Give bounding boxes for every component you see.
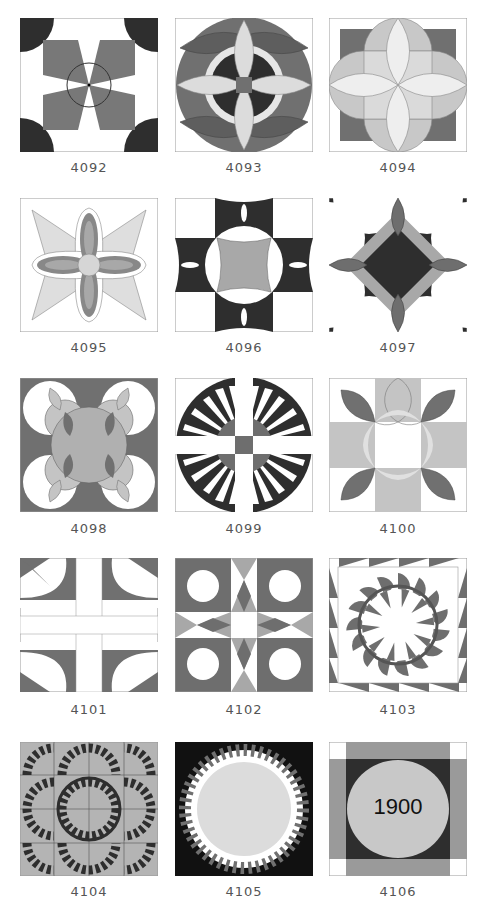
block-4100-pattern [329,378,467,512]
quilt-block-4097[interactable] [329,198,467,332]
block-4102-pattern [175,558,313,692]
quilt-block-4099[interactable] [175,378,313,512]
block-4096-pattern [175,198,313,332]
quilt-block-4096[interactable] [175,198,313,332]
quilt-block-4095[interactable] [20,198,158,332]
block-4097-pattern [329,198,467,332]
quilt-block-4092[interactable] [20,18,158,152]
block-4099-pattern [175,378,313,512]
quilt-block-4098[interactable] [20,378,158,512]
quilt-block-4102[interactable] [175,558,313,692]
block-4094-pattern [329,18,467,152]
block-label: 4094 [329,160,467,175]
quilt-block-4100[interactable] [329,378,467,512]
block-4093-pattern [175,18,313,152]
block-4105-pattern [175,742,313,876]
quilt-block-4093[interactable] [175,18,313,152]
block-label: 4103 [329,702,467,717]
block-4098-pattern [20,378,158,512]
quilt-block-4106[interactable]: 1900 [329,742,467,876]
block-label: 4106 [329,884,467,899]
block-4106-center-text: 1900 [329,794,467,820]
block-label: 4104 [20,884,158,899]
block-label: 4092 [20,160,158,175]
quilt-block-4103[interactable] [329,558,467,692]
quilt-block-4101[interactable] [20,558,158,692]
quilt-block-4105[interactable] [175,742,313,876]
quilt-block-4104[interactable] [20,742,158,876]
block-label: 4095 [20,340,158,355]
block-label: 4102 [175,702,313,717]
block-label: 4101 [20,702,158,717]
block-label: 4097 [329,340,467,355]
block-4101-pattern [20,558,158,692]
block-4103-pattern [329,558,467,692]
block-4095-pattern [20,198,158,332]
block-label: 4098 [20,521,158,536]
block-label: 4100 [329,521,467,536]
block-label: 4096 [175,340,313,355]
block-label: 4099 [175,521,313,536]
block-label: 4105 [175,884,313,899]
block-4092-pattern [20,18,158,152]
block-label: 4093 [175,160,313,175]
block-4104-pattern [20,742,158,876]
quilt-block-4094[interactable] [329,18,467,152]
